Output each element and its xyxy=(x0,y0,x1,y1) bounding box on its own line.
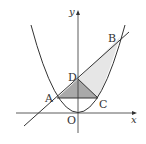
point-a-label: A xyxy=(44,92,54,105)
point-c-label: C xyxy=(99,98,107,111)
diagram: y x O A B C D xyxy=(0,0,146,144)
point-b-label: B xyxy=(108,32,116,45)
y-axis-arrow-icon xyxy=(76,10,80,15)
origin-label: O xyxy=(67,114,76,127)
y-axis-label: y xyxy=(68,6,75,17)
x-axis-label: x xyxy=(131,114,137,125)
point-d-label: D xyxy=(68,71,77,84)
